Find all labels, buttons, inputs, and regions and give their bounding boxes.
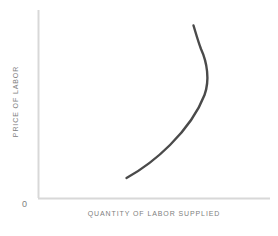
origin-label: 0 <box>22 199 27 209</box>
chart-figure: PRICE OF LABOR QUANTITY OF LABOR SUPPLIE… <box>0 0 278 236</box>
y-axis-label: PRICE OF LABOR <box>12 56 19 148</box>
labor-supply-curve <box>127 26 208 179</box>
chart-canvas <box>0 0 278 236</box>
x-axis-label: QUANTITY OF LABOR SUPPLIED <box>38 210 270 217</box>
